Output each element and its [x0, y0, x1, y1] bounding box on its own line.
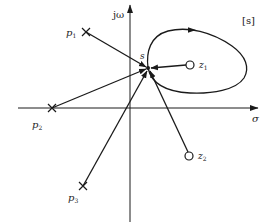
vector-p3-to-s — [83, 71, 147, 186]
contour-path — [148, 29, 247, 93]
vector-p1-to-s — [86, 32, 146, 67]
vector-z2-to-s — [150, 71, 188, 152]
point-s — [146, 66, 150, 70]
vector-p2-to-s — [52, 69, 146, 108]
zero-circle-icon — [185, 152, 193, 160]
imaginary-axis-label: jω — [112, 9, 124, 20]
svg-text:p3: p3 — [68, 192, 78, 204]
pole-p1: p1 — [66, 27, 90, 39]
s-plane-diagram: jω σ [s] s p1 p2 p3 z1 z2 — [0, 0, 276, 224]
zero-z1: z1 — [186, 60, 208, 71]
pole-x-icon — [82, 28, 90, 36]
vector-z1-to-s — [151, 65, 186, 68]
contour-direction-arrow-icon — [188, 27, 196, 33]
pole-x-icon — [79, 182, 87, 190]
svg-text:z1: z1 — [198, 60, 208, 71]
zero-circle-icon — [186, 61, 194, 69]
vectors — [52, 32, 188, 186]
svg-text:p1: p1 — [66, 27, 76, 39]
svg-text:p2: p2 — [32, 119, 42, 131]
plane-label: [s] — [242, 15, 255, 26]
pole-p3: p3 — [68, 182, 87, 204]
point-s-label: s — [140, 51, 145, 61]
zero-z2: z2 — [185, 151, 207, 162]
real-axis-label: σ — [252, 113, 260, 124]
svg-text:z2: z2 — [197, 151, 207, 162]
axes — [18, 5, 258, 222]
